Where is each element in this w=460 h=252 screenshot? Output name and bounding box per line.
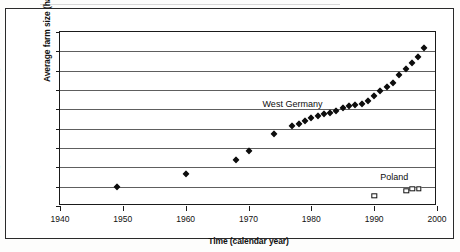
x-tick-mark — [249, 206, 250, 211]
x-tick-label-1960: 1960 — [164, 215, 208, 224]
x-tick-mark — [311, 206, 312, 211]
x-tick-mark — [60, 206, 61, 211]
x-tick-label-1980: 1980 — [289, 215, 333, 224]
plot-area: 681012141618202224 194019501960197019801… — [59, 31, 436, 205]
x-tick-label-1990: 1990 — [352, 215, 396, 224]
x-tick-label-1970: 1970 — [227, 215, 271, 224]
figure: 681012141618202224 194019501960197019801… — [0, 0, 460, 252]
x-tick-label-1950: 1950 — [101, 215, 145, 224]
data-point — [410, 186, 415, 191]
y-axis-title: Average farm size (ha) — [42, 0, 52, 113]
annotation-west-germany: West Germany — [263, 99, 323, 109]
annotation-poland: Poland — [380, 172, 408, 182]
x-tick-mark — [123, 206, 124, 211]
x-axis-title: Time (calendar year) — [60, 236, 437, 246]
data-point — [416, 186, 421, 191]
x-tick-mark — [374, 206, 375, 211]
series-poland — [60, 32, 435, 204]
data-point — [371, 193, 376, 198]
scan-artifact-line — [40, 4, 340, 5]
chart-frame-border: 681012141618202224 194019501960197019801… — [5, 8, 454, 239]
x-tick-label-2000: 2000 — [415, 215, 459, 224]
x-tick-mark — [186, 206, 187, 211]
x-tick-mark — [437, 206, 438, 211]
data-point — [404, 188, 409, 193]
x-tick-label-1940: 1940 — [38, 215, 82, 224]
